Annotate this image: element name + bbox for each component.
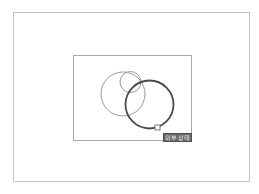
medium-light-circle[interactable]	[101, 72, 145, 116]
shape-label-tag: 외부 상태	[163, 133, 192, 142]
diagram-canvas: 외부 상태	[0, 0, 259, 194]
large-dark-circle[interactable]	[126, 81, 174, 129]
circles-drawing	[0, 0, 259, 194]
resize-handle[interactable]	[155, 125, 160, 130]
